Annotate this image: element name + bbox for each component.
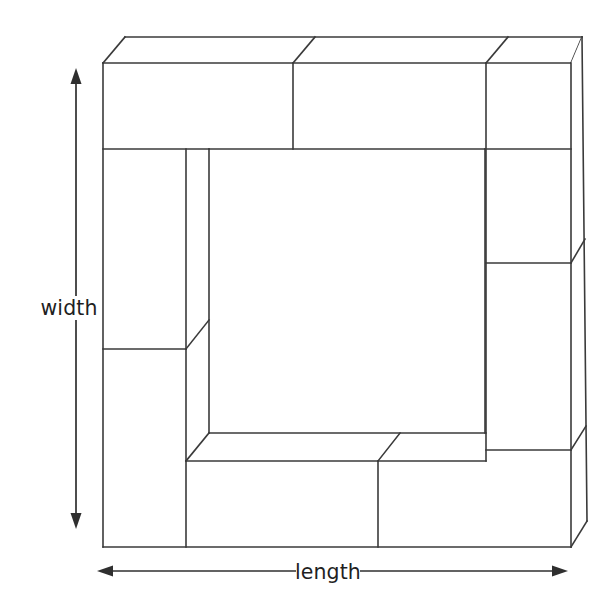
diagram-root: width length xyxy=(0,0,612,605)
width-label: width xyxy=(40,296,97,320)
top-surface-group xyxy=(103,37,582,63)
brick-border-diagram: width length xyxy=(0,0,612,605)
length-label: length xyxy=(295,560,361,584)
top-face-fill xyxy=(103,37,582,63)
